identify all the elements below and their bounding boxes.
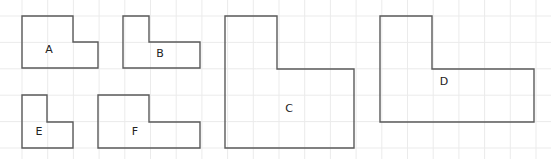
shape-label: C bbox=[285, 102, 293, 115]
shape-label: F bbox=[132, 125, 138, 138]
shapes-diagram: ABCDEF bbox=[0, 0, 551, 159]
shape-label: B bbox=[156, 47, 164, 60]
l-shape-outline bbox=[225, 16, 354, 148]
shape-label: A bbox=[45, 43, 53, 56]
shape-label: E bbox=[36, 125, 43, 138]
background-grid bbox=[0, 0, 551, 159]
shape-c: C bbox=[225, 16, 354, 148]
shape-label: D bbox=[440, 75, 448, 88]
